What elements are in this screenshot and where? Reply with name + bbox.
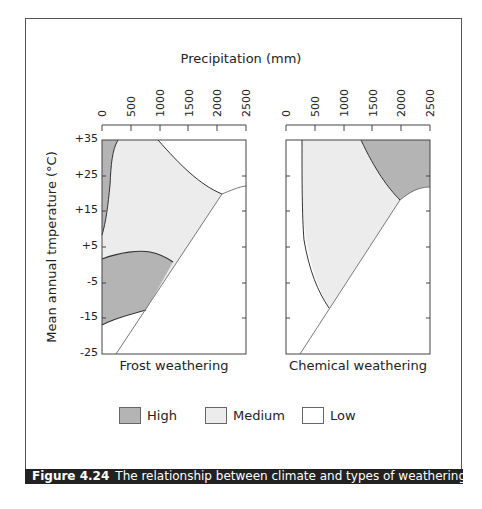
chemical-weathering-panel [286, 125, 430, 354]
panel-title-frost: Frost weathering [84, 358, 264, 373]
legend-high: High [119, 407, 177, 424]
weathering-plots [0, 0, 482, 509]
medium-swatch [205, 407, 227, 424]
legend-medium: Medium [205, 407, 285, 424]
legend-label: High [147, 408, 177, 423]
high-swatch [119, 407, 141, 424]
low-swatch [302, 407, 324, 424]
frost-weathering-panel [102, 125, 246, 354]
caption-number: Figure 4.24 [25, 469, 115, 483]
panel-title-chemical: Chemical weathering [268, 358, 448, 373]
legend-label: Medium [233, 408, 285, 423]
figure-caption: Figure 4.24The relationship between clim… [25, 469, 463, 484]
caption-text: The relationship between climate and typ… [115, 469, 463, 483]
legend-label: Low [330, 408, 356, 423]
legend-low: Low [302, 407, 356, 424]
